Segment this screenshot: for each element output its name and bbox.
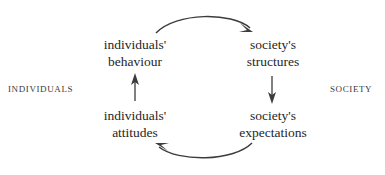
side-label-society: SOCIETY bbox=[330, 84, 372, 94]
node-line-1: individuals' bbox=[104, 108, 166, 123]
node-individuals-behaviour: individuals' behaviour bbox=[80, 36, 190, 70]
arrow-left-up bbox=[131, 73, 139, 101]
diagram-canvas: individuals' behaviour society's structu… bbox=[0, 0, 385, 175]
node-line-1: society's bbox=[250, 108, 296, 123]
node-line-1: society's bbox=[250, 37, 296, 52]
node-line-2: structures bbox=[218, 53, 328, 70]
arrow-right-down bbox=[268, 76, 276, 104]
arc-top-path bbox=[156, 17, 250, 33]
arc-bottom-arrow bbox=[155, 143, 252, 158]
node-line-1: individuals' bbox=[104, 37, 166, 52]
node-society-structures: society's structures bbox=[218, 36, 328, 70]
node-society-expectations: society's expectations bbox=[212, 107, 334, 141]
node-line-2: behaviour bbox=[80, 53, 190, 70]
node-individuals-attitudes: individuals' attitudes bbox=[80, 107, 190, 141]
node-line-2: attitudes bbox=[80, 124, 190, 141]
arc-top-arrow bbox=[156, 17, 253, 33]
arc-bottom-path bbox=[159, 143, 252, 158]
node-line-2: expectations bbox=[212, 124, 334, 141]
side-label-individuals: INDIVIDUALS bbox=[8, 84, 73, 94]
